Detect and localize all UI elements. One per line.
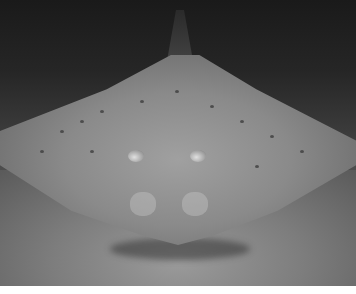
body-spot	[210, 105, 214, 108]
snout-patch-left	[130, 192, 156, 216]
body-spot	[140, 100, 144, 103]
snout-patch-right	[182, 192, 208, 216]
ray-photo	[0, 0, 356, 286]
right-eye	[190, 150, 206, 162]
body-spot	[270, 135, 274, 138]
body-spot	[240, 120, 244, 123]
body-spot	[40, 150, 44, 153]
body-spot	[175, 90, 179, 93]
body-spot	[255, 165, 259, 168]
body-spot	[300, 150, 304, 153]
body-spot	[60, 130, 64, 133]
body-spot	[100, 110, 104, 113]
left-eye	[128, 150, 144, 162]
body-spot	[90, 150, 94, 153]
body-spot	[80, 120, 84, 123]
